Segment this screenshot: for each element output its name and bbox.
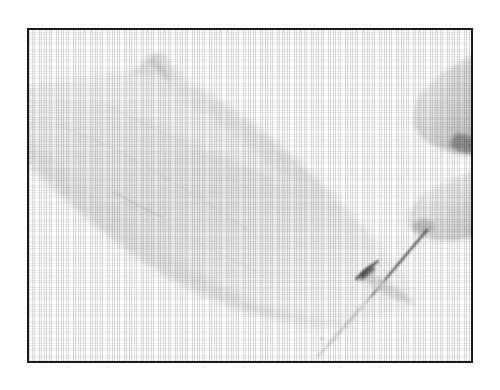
photograph-image — [29, 30, 471, 361]
page-root — [0, 0, 500, 390]
photo-frame — [27, 28, 473, 363]
photo-scan-wash — [29, 30, 471, 361]
